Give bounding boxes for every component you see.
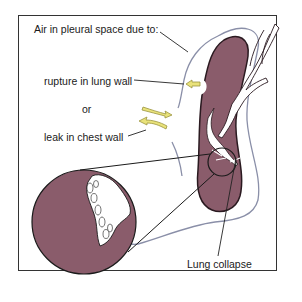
leader-chest bbox=[128, 130, 146, 136]
arrow-chest-wall-in-icon bbox=[142, 107, 172, 118]
magnify-line-top bbox=[80, 154, 210, 170]
or-label: or bbox=[82, 104, 91, 115]
arrow-chest-wall-out-icon bbox=[139, 117, 167, 129]
leader-rupture bbox=[134, 80, 184, 84]
cause-heading-label: Air in pleural space due to: bbox=[34, 24, 158, 35]
arrow-rupture-icon bbox=[186, 80, 200, 88]
magnify-line-bottom bbox=[128, 174, 214, 252]
lung-shape bbox=[198, 37, 249, 212]
rupture-label: rupture in lung wall bbox=[44, 76, 132, 87]
pleural-outline-lower bbox=[172, 142, 182, 176]
pneumothorax-illustration bbox=[0, 0, 302, 302]
lung-collapse-label: Lung collapse bbox=[187, 259, 252, 270]
chest-wall-label: leak in chest wall bbox=[44, 132, 123, 143]
leader-heading bbox=[160, 32, 188, 52]
